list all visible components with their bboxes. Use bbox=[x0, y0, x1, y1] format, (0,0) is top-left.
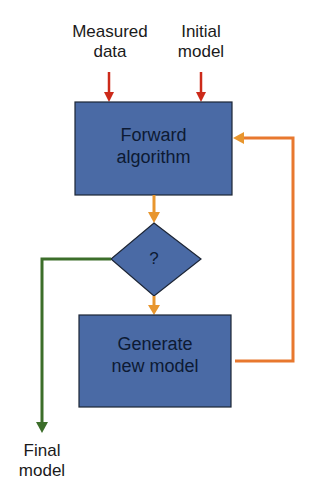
label-line: model bbox=[166, 42, 236, 62]
label-line: Measured bbox=[55, 22, 165, 42]
label-line: data bbox=[55, 42, 165, 62]
arrow-measured-data-to-forward bbox=[104, 72, 114, 102]
box-line: Generate bbox=[79, 333, 231, 355]
forward-algorithm-text: Forward algorithm bbox=[75, 124, 232, 168]
measured-data-label: Measured data bbox=[55, 22, 165, 62]
box-line: algorithm bbox=[75, 146, 232, 168]
decision-label: ? bbox=[149, 249, 158, 268]
arrow-decision-to-generate bbox=[148, 296, 160, 315]
box-line: new model bbox=[79, 355, 231, 377]
box-line: Forward bbox=[75, 124, 232, 146]
arrow-initial-model-to-forward bbox=[196, 72, 206, 102]
decision-text: ? bbox=[134, 248, 174, 270]
label-line: model bbox=[12, 461, 72, 481]
final-model-label: Final model bbox=[12, 441, 72, 481]
generate-new-model-text: Generate new model bbox=[79, 333, 231, 377]
label-line: Final bbox=[12, 441, 72, 461]
label-line: Initial bbox=[166, 22, 236, 42]
arrow-loop-generate-to-forward bbox=[233, 132, 293, 361]
arrow-forward-to-decision bbox=[148, 195, 160, 223]
initial-model-label: Initial model bbox=[166, 22, 236, 62]
